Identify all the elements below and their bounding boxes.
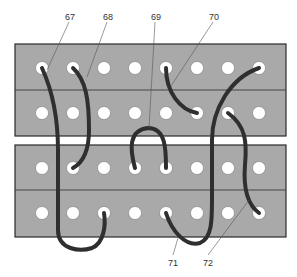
port-hole	[98, 107, 111, 120]
port-hole	[98, 62, 111, 75]
port-hole	[253, 162, 266, 175]
port-hole	[222, 162, 235, 175]
port-hole	[129, 62, 142, 75]
port-hole	[129, 207, 142, 220]
port-hole	[160, 107, 173, 120]
label-70: 70	[209, 12, 219, 22]
port-hole	[191, 207, 204, 220]
port-hole	[191, 62, 204, 75]
port-hole	[222, 62, 235, 75]
port-hole	[191, 162, 204, 175]
label-68: 68	[103, 12, 113, 22]
port-hole	[36, 207, 49, 220]
port-hole	[67, 107, 80, 120]
port-hole	[222, 207, 235, 220]
port-hole	[129, 107, 142, 120]
leader-71	[173, 238, 178, 255]
port-hole	[98, 162, 111, 175]
port-hole	[253, 107, 266, 120]
port-hole	[36, 107, 49, 120]
label-69: 69	[151, 12, 161, 22]
label-67: 67	[65, 12, 75, 22]
patch-panel-diagram: 67 68 69 70 71 72	[0, 0, 297, 277]
label-71: 71	[168, 258, 178, 268]
label-72: 72	[203, 258, 213, 268]
port-hole	[67, 207, 80, 220]
port-hole	[36, 162, 49, 175]
